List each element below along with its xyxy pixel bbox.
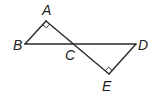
geometry-diagram: A B C D E [0, 0, 155, 100]
label-d: D [138, 37, 148, 53]
label-a: A [41, 2, 51, 18]
right-angle-mark-e [105, 67, 112, 71]
segment-ae [46, 21, 109, 74]
label-c: C [65, 47, 76, 63]
segment-de [109, 44, 136, 74]
label-b: B [13, 37, 22, 53]
label-e: E [102, 78, 112, 94]
